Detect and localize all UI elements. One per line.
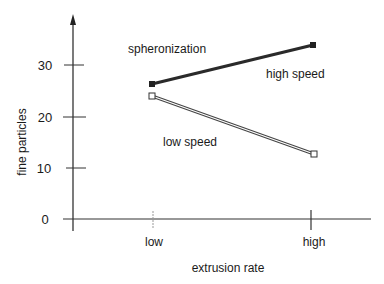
y-axis: 30 20 10 0 fine particles (15, 14, 86, 231)
y-axis-arrow-icon (70, 14, 76, 25)
y-tick-0: 0 (41, 212, 48, 227)
chart: 30 20 10 0 fine particles low high extru… (0, 0, 384, 284)
label-high-speed: high speed (266, 67, 325, 81)
y-tick-10: 10 (37, 161, 51, 176)
filled-square-marker-icon (149, 81, 155, 87)
open-square-marker-icon (149, 93, 155, 99)
x-axis-label: extrusion rate (192, 261, 265, 275)
x-tick-low: low (145, 235, 163, 249)
annotation-spheronization: spheronization (128, 42, 206, 56)
y-axis-label: fine particles (15, 108, 29, 175)
y-tick-20: 20 (38, 110, 52, 125)
y-tick-30: 30 (38, 58, 52, 73)
label-low-speed: low speed (163, 135, 217, 149)
x-axis: low high extrusion rate (63, 210, 371, 275)
open-square-marker-icon (311, 151, 317, 157)
filled-square-marker-icon (310, 42, 316, 48)
x-tick-high: high (303, 235, 326, 249)
